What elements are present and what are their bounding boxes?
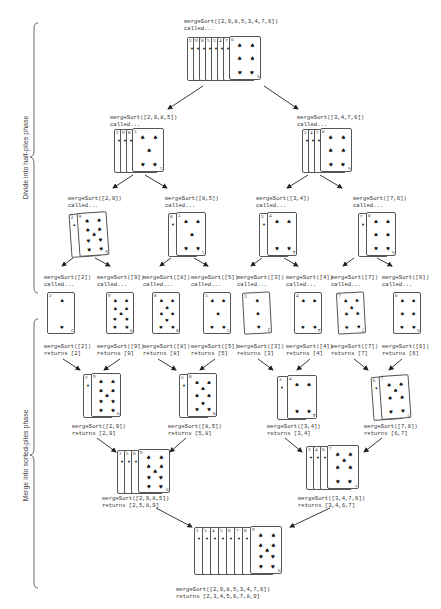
playing-card: 44♠♠♠♠: [267, 212, 297, 256]
playing-card: 55♠♠♠♠♠: [132, 128, 164, 172]
spade-icon: ♠: [146, 463, 150, 471]
leaf-call-label: mergeSort([2]) called...: [44, 274, 91, 288]
card-rank: 3: [244, 294, 247, 299]
card-rank: 4: [293, 250, 296, 255]
spade-icon: ♠: [355, 297, 359, 305]
leaf-call-label: mergeSort([8]) called...: [143, 274, 190, 288]
label-line: mergeSort([7]): [331, 274, 378, 281]
playing-card: 44♠♠♠♠: [294, 292, 322, 334]
spade-icon: ♠: [92, 231, 97, 239]
spade-icon: ♠: [222, 535, 224, 543]
label-line: mergeSort([4]): [286, 343, 333, 350]
label-line: called...: [68, 202, 98, 209]
spade-icon: ♠: [153, 160, 157, 168]
playing-card: 55♠♠♠♠♠: [203, 292, 231, 334]
card-rank: 7: [225, 38, 228, 43]
card-rank: 8: [176, 328, 179, 333]
spade-icon: ♠: [328, 134, 332, 142]
label-line: returns [5]: [191, 350, 228, 357]
spade-icon: ♠: [341, 160, 345, 168]
spade-icon: ♠: [60, 297, 64, 305]
spade-icon: ♠: [98, 235, 103, 243]
spade-icon: ♠: [250, 55, 254, 63]
leaf-return-label: mergeSort([3]) returns [3]: [237, 343, 284, 357]
card-rank: 5: [207, 38, 210, 43]
card-rank: 9: [108, 293, 111, 298]
spade-icon: ♠: [111, 387, 115, 395]
card-rank: 5: [160, 166, 163, 171]
spade-icon: ♠: [356, 310, 360, 318]
spade-icon: ♠: [214, 535, 216, 543]
spade-icon: ♠: [99, 244, 104, 252]
card-rank: 5: [227, 328, 230, 333]
spade-icon: ♠: [195, 379, 199, 387]
card-rank: 9: [122, 130, 125, 135]
spade-icon: ♠: [86, 236, 91, 244]
playing-card: 99♠♠♠♠♠♠♠♠♠: [91, 373, 121, 417]
rl-call-label: mergeSort([3,4]) called...: [256, 195, 310, 209]
label-line: mergeSort([3]): [237, 274, 284, 281]
spade-icon: ♠: [401, 310, 405, 318]
spade-icon: ♠: [114, 323, 118, 331]
spade-icon: ♠: [335, 477, 339, 485]
label-line: returns [8]: [143, 350, 180, 357]
card-rank: 4: [318, 328, 321, 333]
spade-icon: ♠: [125, 297, 129, 305]
spade-icon: ♠: [201, 385, 205, 393]
spade-icon: ♠: [195, 392, 199, 400]
card-rank: 2: [49, 293, 52, 298]
spade-icon: ♠: [295, 381, 299, 389]
card-rank: 2: [119, 451, 122, 456]
spade-icon: ♠: [153, 468, 157, 476]
spade-icon: ♠: [307, 381, 311, 389]
playing-card: 77♠♠♠♠♠♠♠: [379, 374, 412, 420]
spade-icon: ♠: [342, 457, 346, 465]
spade-icon: ♠: [128, 458, 130, 466]
label-line: mergeSort([6]): [382, 343, 429, 350]
spade-icon: ♠: [344, 310, 348, 318]
label-line: mergeSort([2]): [44, 274, 91, 281]
label-line: returns [2,3,4,5,6,7,8,9]: [176, 593, 260, 600]
card-rank: 8: [154, 293, 157, 298]
spade-icon: ♠: [172, 221, 174, 229]
spade-icon: ♠: [159, 454, 163, 462]
spade-icon: ♠: [184, 218, 188, 226]
label-line: mergeSort([3,4]): [267, 423, 321, 430]
spade-icon: ♠: [412, 297, 416, 305]
spade-icon: ♠: [171, 323, 175, 331]
spade-icon: ♠: [271, 552, 275, 560]
left-return-label: mergeSort([2,9,8,5]) returns [2,5,8,9]: [102, 495, 169, 509]
spade-icon: ♠: [281, 384, 283, 392]
spade-icon: ♠: [271, 542, 275, 550]
label-line: mergeSort([9]): [97, 343, 144, 350]
right-call-label: mergeSort([3,4,7,6]) called...: [297, 114, 364, 128]
label-line: mergeSort([5]): [191, 274, 238, 281]
card-rank: 6: [368, 213, 371, 218]
spade-icon: ♠: [195, 405, 199, 413]
label-line: called...: [191, 281, 221, 288]
ll-call-label: mergeSort([2,9]) called...: [68, 195, 122, 209]
spade-icon: ♠: [216, 310, 220, 318]
leaf-return-label: mergeSort([7]) returns [7]: [331, 343, 378, 357]
spade-icon: ♠: [159, 482, 163, 490]
spade-icon: ♠: [335, 464, 339, 472]
label-line: mergeSort([3]): [237, 343, 284, 350]
spade-icon: ♠: [165, 316, 169, 324]
card-rank: 8: [128, 130, 131, 135]
label-line: mergeSort([8,5]): [168, 423, 222, 430]
spade-icon: ♠: [265, 547, 269, 555]
spade-icon: ♠: [401, 407, 406, 415]
spade-icon: ♠: [250, 68, 254, 76]
spade-icon: ♠: [348, 451, 352, 459]
card-rank: 2: [196, 528, 199, 533]
leaf-call-label: mergeSort([6]) called...: [382, 274, 429, 288]
spade-icon: ♠: [256, 310, 260, 318]
spade-icon: ♠: [125, 315, 129, 323]
spade-icon: ♠: [237, 42, 241, 50]
leaf-call-label: mergeSort([9]) called...: [97, 274, 144, 288]
spade-icon: ♠: [386, 231, 390, 239]
card-rank: 7: [407, 412, 410, 417]
label-line: mergeSort([7,6]): [364, 423, 418, 430]
label-line: mergeSort([7]): [331, 343, 378, 350]
label-line: returns [2,9]: [72, 430, 116, 437]
